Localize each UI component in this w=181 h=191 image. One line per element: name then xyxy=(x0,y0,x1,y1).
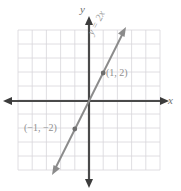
arrow-left-icon xyxy=(3,97,12,105)
y-axis-label: y xyxy=(80,4,85,15)
coordinate-graph-figure: y x y = 2x (1, 2) (−1, −2) xyxy=(0,0,181,191)
x-axis-label: x xyxy=(168,95,173,106)
point-label-p2: (−1, −2) xyxy=(24,123,57,133)
point-label-p1: (1, 2) xyxy=(106,68,128,78)
x-axis xyxy=(3,97,169,105)
arrow-down-icon xyxy=(85,179,93,188)
data-point-p2 xyxy=(72,127,77,132)
data-point-p1 xyxy=(101,71,106,76)
line-arrow-up-icon xyxy=(118,27,126,37)
